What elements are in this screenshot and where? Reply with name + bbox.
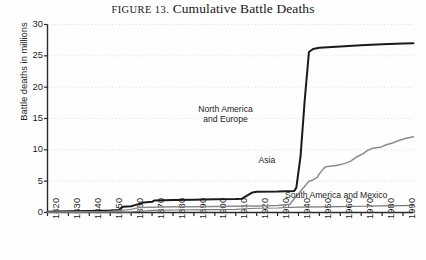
series-line xyxy=(48,43,414,212)
chart-plot-area xyxy=(0,0,426,260)
series-label: North Americaand Europe xyxy=(198,105,252,125)
series-label: South America and Mexico xyxy=(285,191,387,201)
series-label: Asia xyxy=(259,156,276,166)
figure-container: FIGURE 13. Cumulative Battle Deaths Batt… xyxy=(0,0,426,260)
